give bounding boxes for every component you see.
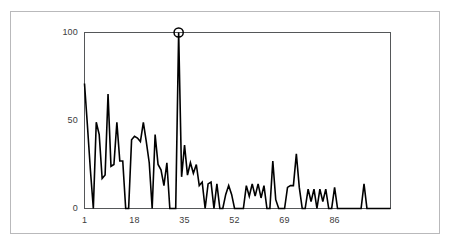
- x-axis-tick-label: 18: [120, 215, 150, 225]
- figure-container: 0 50 100 1 18 35 52 69 86: [0, 0, 453, 249]
- x-axis-tick-label: 35: [170, 215, 200, 225]
- data-series-line: [85, 33, 391, 209]
- x-axis-tick-label: 1: [70, 215, 100, 225]
- x-axis-tick-label: 52: [220, 215, 250, 225]
- y-axis-tick-label: 50: [52, 115, 78, 125]
- y-axis-tick-label: 0: [52, 203, 78, 213]
- y-axis-tick-label: 100: [52, 27, 78, 37]
- x-axis-tick-label: 69: [270, 215, 300, 225]
- x-axis-tick-label: 86: [320, 215, 350, 225]
